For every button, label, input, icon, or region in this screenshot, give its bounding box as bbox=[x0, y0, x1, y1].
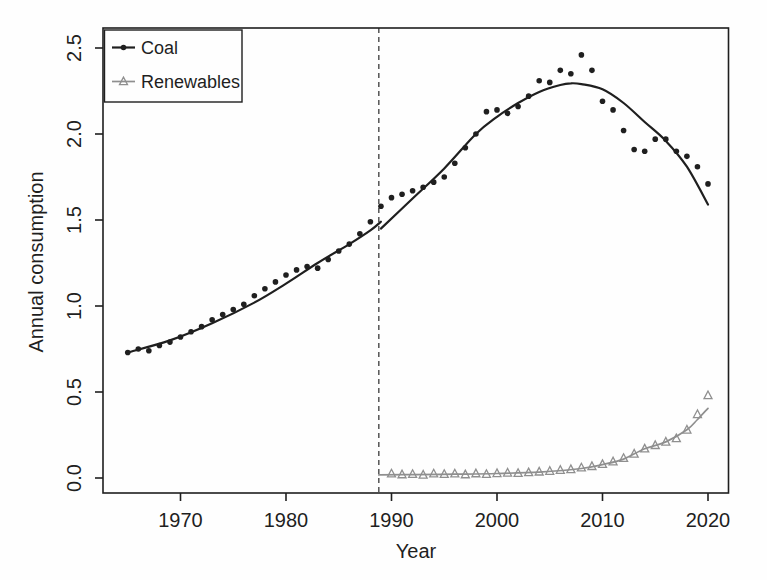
x-axis-tick-label: 2010 bbox=[580, 509, 625, 531]
data-point-coal bbox=[125, 350, 131, 356]
data-point-coal bbox=[273, 279, 279, 285]
data-point-coal bbox=[304, 264, 310, 270]
data-point-coal bbox=[220, 312, 226, 318]
data-point-coal bbox=[146, 348, 152, 354]
y-axis-tick-label: 2.0 bbox=[63, 120, 85, 148]
data-point-coal bbox=[410, 188, 416, 194]
legend-label: Coal bbox=[141, 38, 178, 58]
data-point-coal bbox=[547, 80, 553, 86]
x-axis-tick-label: 2000 bbox=[475, 509, 520, 531]
data-point-coal bbox=[621, 128, 627, 134]
data-point-coal bbox=[230, 307, 236, 313]
data-point-coal bbox=[136, 346, 142, 352]
data-point-coal bbox=[463, 145, 469, 151]
data-point-coal bbox=[452, 160, 458, 166]
chart-figure: 1970198019902000201020200.00.51.01.52.02… bbox=[0, 0, 767, 580]
data-point-coal bbox=[357, 231, 363, 237]
data-point-coal bbox=[241, 301, 247, 307]
data-point-renewables bbox=[430, 469, 438, 477]
y-axis-tick-label: 2.5 bbox=[63, 34, 85, 62]
data-point-coal bbox=[262, 286, 268, 292]
data-point-coal bbox=[684, 154, 690, 160]
fitted-curve-coal-1 bbox=[128, 222, 381, 353]
data-point-coal bbox=[473, 131, 479, 137]
data-point-coal bbox=[663, 136, 669, 142]
data-point-coal bbox=[558, 68, 564, 74]
data-point-coal bbox=[378, 203, 384, 209]
data-point-coal bbox=[536, 78, 542, 84]
data-point-coal bbox=[484, 109, 490, 115]
data-point-renewables bbox=[504, 468, 512, 476]
data-point-coal bbox=[600, 99, 606, 105]
data-point-coal bbox=[568, 71, 574, 77]
x-axis-tick-label: 1970 bbox=[158, 509, 203, 531]
data-point-coal bbox=[368, 219, 374, 225]
data-point-coal bbox=[431, 179, 437, 185]
fitted-curve-renewables-1 bbox=[379, 408, 708, 475]
data-point-coal bbox=[336, 248, 342, 254]
data-point-renewables bbox=[693, 410, 701, 418]
y-axis-tick-label: 0.5 bbox=[63, 378, 85, 406]
data-point-coal bbox=[283, 272, 289, 278]
data-point-renewables bbox=[409, 470, 417, 478]
legend: CoalRenewables bbox=[105, 30, 243, 102]
fitted-curve-coal-2 bbox=[381, 83, 708, 228]
data-point-coal bbox=[526, 93, 532, 99]
data-point-coal bbox=[441, 174, 447, 180]
data-point-coal bbox=[579, 52, 585, 58]
data-point-coal bbox=[199, 324, 205, 330]
x-axis-tick-label: 2020 bbox=[686, 509, 731, 531]
data-point-renewables bbox=[704, 391, 712, 399]
data-point-renewables bbox=[388, 469, 396, 477]
data-point-coal bbox=[652, 136, 658, 142]
data-point-coal bbox=[631, 147, 637, 153]
data-point-coal bbox=[389, 195, 395, 201]
data-point-coal bbox=[188, 329, 194, 335]
data-point-coal bbox=[674, 148, 680, 154]
data-point-coal bbox=[610, 107, 616, 113]
legend-label: Renewables bbox=[141, 72, 240, 92]
data-point-coal bbox=[315, 265, 321, 271]
y-axis-tick-label: 1.5 bbox=[63, 206, 85, 234]
data-point-coal bbox=[505, 111, 511, 117]
x-axis-tick-label: 1990 bbox=[369, 509, 414, 531]
data-point-renewables bbox=[472, 469, 480, 477]
x-axis-tick-label: 1980 bbox=[264, 509, 309, 531]
data-point-coal bbox=[157, 343, 163, 349]
y-axis-title: Annual consumption bbox=[25, 171, 47, 352]
plot-area: 1970198019902000201020200.00.51.01.52.02… bbox=[63, 28, 730, 531]
y-axis-tick-label: 1.0 bbox=[63, 292, 85, 320]
data-point-coal bbox=[589, 68, 595, 74]
data-point-coal bbox=[642, 148, 648, 154]
data-point-coal bbox=[294, 267, 300, 273]
data-point-coal bbox=[167, 339, 173, 345]
legend-marker-filled-circle bbox=[121, 45, 127, 51]
data-point-coal bbox=[209, 317, 215, 323]
data-point-coal bbox=[515, 104, 521, 110]
data-point-renewables bbox=[577, 463, 585, 471]
x-axis-title: Year bbox=[396, 540, 437, 562]
data-point-renewables bbox=[556, 466, 564, 474]
data-point-coal bbox=[347, 241, 353, 247]
data-point-coal bbox=[695, 164, 701, 170]
data-point-coal bbox=[178, 334, 184, 340]
scatter-plot-canvas: 1970198019902000201020200.00.51.01.52.02… bbox=[0, 0, 767, 580]
y-axis-tick-label: 0.0 bbox=[63, 464, 85, 492]
data-point-coal bbox=[705, 181, 711, 187]
data-point-coal bbox=[420, 185, 426, 191]
data-point-coal bbox=[325, 257, 331, 263]
data-point-coal bbox=[252, 293, 258, 299]
data-point-coal bbox=[494, 107, 500, 113]
data-point-renewables bbox=[451, 469, 459, 477]
data-point-coal bbox=[399, 191, 405, 197]
